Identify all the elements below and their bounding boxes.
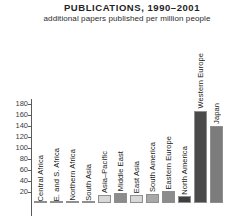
y-axis-tick-label: 180 xyxy=(2,100,28,108)
bar-group: Japan xyxy=(210,99,223,216)
bar-group: Western Europe xyxy=(194,99,207,216)
bar-group: Northern Africa xyxy=(66,99,79,216)
bar xyxy=(130,195,143,203)
chart-subtitle: additional papers published per million … xyxy=(0,14,242,24)
bar-category-label: Middle East xyxy=(114,151,127,191)
bar-group: Central Africa xyxy=(34,99,47,216)
bar xyxy=(178,196,191,203)
bar-category-label: Western Europe xyxy=(194,53,207,108)
bar xyxy=(210,126,223,203)
bar-group: Middle East xyxy=(114,99,127,216)
bar-group: Asia–Pacific xyxy=(98,99,111,216)
bar xyxy=(194,111,207,203)
y-axis-tick-label: 40 xyxy=(2,177,28,185)
bar xyxy=(146,194,159,203)
bar-group: East Asia xyxy=(130,99,143,216)
chart-header: PUBLICATIONS, 1990–2001 additional paper… xyxy=(0,0,242,24)
bar-group: South America xyxy=(146,99,159,216)
bar-group: Eastern Europe xyxy=(162,99,175,216)
y-axis-tick-label: 100 xyxy=(2,144,28,152)
page-title: PUBLICATIONS, 1990–2001 xyxy=(0,2,242,13)
bar-series: Central AfricaE. and S. AfricaNorthern A… xyxy=(31,99,242,216)
bar-category-label: Eastern Europe xyxy=(162,136,175,190)
y-axis-tick-label: 120 xyxy=(2,133,28,141)
y-axis-tick-label: 60 xyxy=(2,166,28,174)
bar xyxy=(66,201,79,203)
y-axis-tick-label: 140 xyxy=(2,122,28,130)
bar xyxy=(162,191,175,203)
bar xyxy=(82,201,95,203)
bar-category-label: North America xyxy=(178,146,191,195)
bar-category-label: South America xyxy=(146,142,159,192)
bar-category-label: East Asia xyxy=(130,161,143,193)
bar-category-label: Asia–Pacific xyxy=(98,151,111,193)
bar-group: North America xyxy=(178,99,191,216)
bar xyxy=(50,201,63,203)
y-axis-tick-labels: 18016014012010080604020 xyxy=(0,99,28,216)
y-axis-tick-label: 160 xyxy=(2,111,28,119)
bar-group: South Asia xyxy=(82,99,95,216)
bar-category-label: Northern Africa xyxy=(66,149,79,201)
bar-category-label: Central Africa xyxy=(34,155,47,201)
y-axis-tick-label: 80 xyxy=(2,155,28,163)
bar xyxy=(98,195,111,203)
publications-bar-chart: PUBLICATIONS, 1990–2001 additional paper… xyxy=(0,0,242,216)
bar-category-label: E. and S. Africa xyxy=(50,148,63,201)
bar-group: E. and S. Africa xyxy=(50,99,63,216)
bar xyxy=(114,193,127,203)
bar-category-label: South Asia xyxy=(82,164,95,201)
bar-category-label: Japan xyxy=(210,103,223,124)
y-axis-tick-label: 20 xyxy=(2,188,28,196)
